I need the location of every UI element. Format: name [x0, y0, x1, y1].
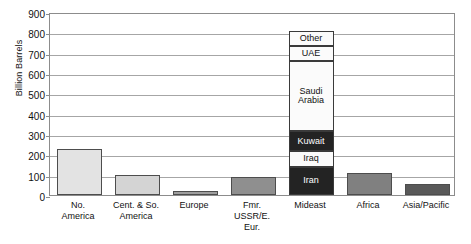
- x-axis-label-line: USSR/E.: [223, 211, 281, 222]
- y-axis-tick-label: 700: [28, 49, 45, 60]
- y-axis-tick-label: 500: [28, 90, 45, 101]
- bar-asia-pacific[interactable]: [405, 184, 450, 195]
- stack-segment-saudi-arabia[interactable]: Saudi Arabia: [289, 61, 334, 131]
- y-axis-tick-mark: [46, 55, 50, 56]
- gridline: [50, 95, 454, 96]
- x-axis-label-line: No.: [49, 200, 107, 211]
- x-axis-label-line: Eur.: [223, 222, 281, 233]
- y-axis-tick-label: 100: [28, 171, 45, 182]
- bar-mideast[interactable]: IranIraqKuwaitSaudi ArabiaUAEOther: [289, 31, 334, 195]
- y-axis-tick-label: 300: [28, 131, 45, 142]
- stack-segment-kuwait[interactable]: Kuwait: [289, 131, 334, 151]
- gridline: [50, 55, 454, 56]
- y-axis-tick-label: 800: [28, 29, 45, 40]
- x-axis-label-mideast: Mideast: [281, 200, 339, 211]
- x-axis-label-line: Europe: [165, 200, 223, 211]
- y-axis-tick-label: 0: [39, 192, 45, 203]
- x-axis-label-line: Fmr.: [223, 200, 281, 211]
- x-axis-label-line: Mideast: [281, 200, 339, 211]
- y-axis-tick-mark: [46, 95, 50, 96]
- x-axis-label-africa: Africa: [339, 200, 397, 211]
- y-axis-tick-mark: [46, 177, 50, 178]
- bar-cent-so-america[interactable]: [115, 175, 160, 195]
- y-axis-title: Billion Barrels: [14, 8, 24, 128]
- stack-segment-iraq[interactable]: Iraq: [289, 151, 334, 166]
- y-axis-tick-label: 400: [28, 110, 45, 121]
- x-axis-label-line: Asia/Pacific: [397, 200, 455, 211]
- x-axis-label-cent-so-america: Cent. & So.America: [107, 200, 165, 222]
- bar-europe[interactable]: [173, 191, 218, 195]
- y-axis-tick-label: 200: [28, 151, 45, 162]
- gridline: [50, 75, 454, 76]
- y-axis-tick-label: 600: [28, 70, 45, 81]
- x-axis-label-asia-pacific: Asia/Pacific: [397, 200, 455, 211]
- y-axis-tick-mark: [46, 197, 50, 198]
- x-axis-label-line: Cent. & So.: [107, 200, 165, 211]
- y-axis-tick-mark: [46, 116, 50, 117]
- x-axis-label-europe: Europe: [165, 200, 223, 211]
- x-axis-label-no-america: No.America: [49, 200, 107, 222]
- gridline: [50, 156, 454, 157]
- stack-segment-iran[interactable]: Iran: [289, 167, 334, 195]
- x-axis-label-line: America: [107, 211, 165, 222]
- x-axis-label-line: America: [49, 211, 107, 222]
- x-axis-label-line: Africa: [339, 200, 397, 211]
- y-axis-tick-mark: [46, 156, 50, 157]
- stack-segment-uae[interactable]: UAE: [289, 46, 334, 61]
- gridline: [50, 136, 454, 137]
- gridline: [50, 116, 454, 117]
- bar-chart: Billion Barrels 010020030040050060070080…: [0, 0, 471, 244]
- x-axis-label-fmr-ussr-e-eur: Fmr.USSR/E.Eur.: [223, 200, 281, 233]
- y-axis-tick-mark: [46, 136, 50, 137]
- gridline: [50, 34, 454, 35]
- stack-segment-other[interactable]: Other: [289, 31, 334, 45]
- y-axis-tick-mark: [46, 75, 50, 76]
- bar-no-america[interactable]: [57, 149, 102, 195]
- plot-area: 0100200300400500600700800900 IranIraqKuw…: [49, 13, 455, 196]
- y-axis-tick-label: 900: [28, 9, 45, 20]
- bar-fmr-ussr-e-eur[interactable]: [231, 177, 276, 195]
- y-axis-tick-mark: [46, 34, 50, 35]
- bar-africa[interactable]: [347, 173, 392, 195]
- y-axis-tick-mark: [46, 14, 50, 15]
